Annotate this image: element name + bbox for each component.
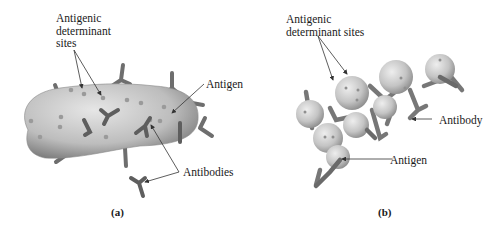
label-antibody-b: Antibody [439, 114, 482, 127]
caption-a: (a) [111, 206, 124, 218]
label-antigen-a: Antigen [206, 78, 243, 91]
label-antigen-b: Antigen [390, 154, 427, 167]
label-antigenic-determinant-sites-b: Antigenic determinant sites [286, 13, 364, 38]
label-antibodies-a: Antibodies [183, 166, 233, 179]
antigen-sphere [296, 54, 455, 169]
caption-b: (b) [378, 206, 391, 218]
panel-b-illustration [296, 36, 462, 186]
label-antigenic-determinant-sites-a: Antigenic determinant sites [56, 12, 111, 50]
antigen-body [25, 84, 199, 158]
